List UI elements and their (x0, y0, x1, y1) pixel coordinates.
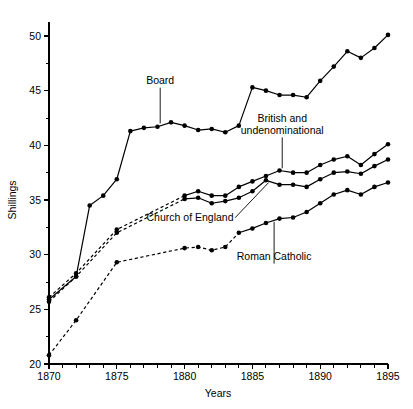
data-point: Board 1876: 41.3 (128, 129, 133, 134)
y-tick-label: 50 (29, 30, 41, 42)
data-point: Board 1886: 45 (264, 88, 269, 93)
data-point: Board 1879: 42.1 (169, 120, 174, 125)
data-point: Board 1882: 41.5 (209, 127, 214, 132)
data-point: British and undenominational 1886: 37.2 (264, 174, 269, 179)
data-point: Board 1887: 44.6 (277, 93, 282, 98)
data-point: Board 1890: 45.9 (318, 79, 323, 84)
data-point: Board 1893: 48 (359, 56, 364, 61)
data-point: British and undenominational 1884: 36.2 (237, 185, 242, 190)
annotation-line: Church of England (147, 211, 234, 223)
data-series: Board 1870: 25.9Board 1872: 28Board 1873… (47, 33, 391, 358)
series-path-solid (185, 160, 388, 204)
data-point: Board 1875: 36.9 (115, 177, 120, 182)
data-point: Roman Catholic 1887: 33.3 (277, 216, 282, 221)
data-point: Roman Catholic 1886: 32.9 (264, 221, 269, 226)
series-roman-catholic: Roman Catholic 1870: 20.8Roman Catholic … (47, 180, 391, 357)
data-point: British and undenominational 1893: 38.2 (359, 163, 364, 168)
series-path-solid (185, 144, 388, 195)
data-point: Roman Catholic 1889: 33.9 (304, 210, 309, 215)
series-board: Board 1870: 25.9Board 1872: 28Board 1873… (47, 33, 391, 302)
data-point: British and undenominational 1870: 26.1 (47, 295, 52, 300)
data-point: Board 1878: 41.7 (155, 124, 160, 129)
data-point: British and undenominational 1891: 38.7 (331, 157, 336, 162)
data-point: Church of England 1895: 38.7 (386, 157, 391, 162)
data-point: British and undenominational 1895: 40.1 (386, 142, 391, 147)
data-point: British and undenominational 1885: 36.7 (250, 179, 255, 184)
data-point: Roman Catholic 1880: 30.6 (182, 246, 187, 251)
y-tick-label: 35 (29, 194, 41, 206)
data-point: British and undenominational 1881: 35.8 (196, 189, 201, 194)
y-tick-label: 25 (29, 303, 41, 315)
data-point: Church of England 1886: 36.8 (264, 178, 269, 183)
data-point: Roman Catholic 1872: 24 (74, 318, 79, 323)
x-tick-label: 1870 (37, 370, 61, 382)
line-chart: 20253035404550187018751880188518901895 B… (0, 0, 413, 409)
data-point: Roman Catholic 1882: 30.4 (209, 248, 214, 253)
data-point: Roman Catholic 1893: 35.5 (359, 192, 364, 197)
data-point: Roman Catholic 1891: 35.5 (331, 192, 336, 197)
y-tick-label: 45 (29, 84, 41, 96)
data-point: British and undenominational 1889: 37.5 (304, 170, 309, 175)
data-point: Board 1885: 45.3 (250, 85, 255, 90)
y-tick-label: 20 (29, 358, 41, 370)
y-tick-label: 30 (29, 248, 41, 260)
data-point: Church of England 1894: 38.1 (372, 164, 377, 169)
data-point: British and undenominational 1894: 39.2 (372, 152, 377, 157)
axes: 20253035404550187018751880188518901895 (29, 22, 400, 382)
y-tick-label: 40 (29, 139, 41, 151)
annotation-line: British and (257, 112, 307, 124)
data-point: Board 1892: 48.6 (345, 49, 350, 54)
data-point: Board 1891: 47.2 (331, 64, 336, 69)
chart-container: 20253035404550187018751880188518901895 B… (0, 0, 413, 409)
data-point: Board 1880: 41.8 (182, 123, 187, 128)
x-tick-label: 1880 (173, 370, 197, 382)
data-point: Church of England 1892: 37.6 (345, 169, 350, 174)
data-point: Church of England 1883: 34.9 (223, 199, 228, 204)
data-point: Roman Catholic 1875: 29.3 (115, 260, 120, 265)
data-point: Church of England 1872: 28 (74, 274, 79, 279)
data-point: Roman Catholic 1881: 30.7 (196, 245, 201, 250)
data-point: Board 1881: 41.4 (196, 128, 201, 133)
data-point: Roman Catholic 1892: 35.9 (345, 188, 350, 193)
data-point: British and undenominational 1883: 35.4 (223, 193, 228, 198)
data-point: Church of England 1884: 35.2 (237, 196, 242, 201)
annotation-line: undenominational (241, 124, 324, 136)
x-axis-title: Years (205, 387, 231, 399)
data-point: Church of England 1893: 37.4 (359, 171, 364, 176)
data-point: Board 1877: 41.6 (142, 126, 147, 131)
data-point: Board 1874: 35.4 (101, 193, 106, 198)
data-point: British and undenominational 1890: 38.2 (318, 163, 323, 168)
annotation-label: Board (146, 74, 174, 86)
data-point: Roman Catholic 1883: 30.7 (223, 245, 228, 250)
data-point: British and undenominational 1888: 37.5 (291, 170, 296, 175)
data-point: Church of England 1889: 36.2 (304, 185, 309, 190)
series-annotations: BoardBritish andundenominationalChurch o… (146, 74, 324, 264)
series-church-of-england: Church of England 1870: 25.7Church of En… (47, 157, 391, 304)
data-point: Church of England 1881: 35.2 (196, 196, 201, 201)
y-axis-title: Shillings (6, 180, 18, 219)
data-point: Roman Catholic 1885: 32.4 (250, 226, 255, 231)
data-point: Church of England 1890: 36.9 (318, 177, 323, 182)
annotation-label: Church of England (147, 211, 234, 223)
x-tick-label: 1885 (241, 370, 265, 382)
data-point: Roman Catholic 1888: 33.4 (291, 215, 296, 220)
data-point: Roman Catholic 1884: 32 (237, 231, 242, 236)
data-point: Board 1895: 50.1 (386, 33, 391, 38)
data-point: British and undenominational 1882: 35.4 (209, 193, 214, 198)
data-point: British and undenominational 1892: 39 (345, 154, 350, 159)
data-point: Board 1883: 41.2 (223, 130, 228, 135)
data-point: Church of England 1887: 36.4 (277, 182, 282, 187)
annotation-label: British andundenominational (241, 112, 324, 136)
data-point: Church of England 1891: 37.5 (331, 170, 336, 175)
data-point: Board 1894: 48.9 (372, 46, 377, 51)
data-point: Roman Catholic 1895: 36.6 (386, 180, 391, 185)
data-point: Church of England 1870: 25.7 (47, 299, 52, 304)
data-point: British and undenominational 1887: 37.7 (277, 168, 282, 173)
data-point: Church of England 1880: 35.1 (182, 197, 187, 202)
data-point: Church of England 1882: 34.7 (209, 201, 214, 206)
data-point: Roman Catholic 1894: 36.2 (372, 185, 377, 190)
data-point: Church of England 1885: 35.8 (250, 189, 255, 194)
data-point: Church of England 1888: 36.4 (291, 182, 296, 187)
data-point: Roman Catholic 1870: 20.8 (47, 353, 52, 358)
data-point: Board 1873: 34.5 (87, 203, 92, 208)
